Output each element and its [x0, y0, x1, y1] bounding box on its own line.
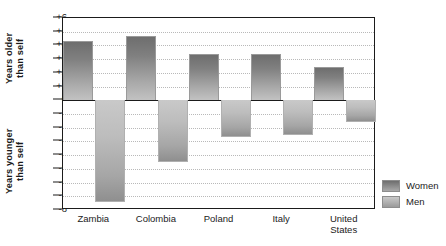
- y-tick-mark: [53, 44, 62, 45]
- bar-men-italy: [283, 100, 313, 134]
- y-tick-mark: [53, 167, 62, 168]
- y-tick-mark: [53, 71, 62, 72]
- x-axis-label: Colombia: [136, 213, 176, 224]
- bar-men-united-states: [346, 100, 376, 122]
- gridline: [63, 32, 374, 33]
- y-axis-title-older: Years older than self: [4, 22, 26, 94]
- y-tick-mark: [53, 154, 62, 155]
- y-tick-mark: [53, 140, 62, 141]
- y-tick-mark: [53, 209, 62, 210]
- bar-women-poland: [189, 54, 219, 101]
- legend: Women Men: [382, 180, 439, 212]
- plot-area: [62, 17, 375, 209]
- x-axis-label: Italy: [272, 213, 289, 224]
- bar-men-zambia: [95, 100, 125, 201]
- x-axis-label: Zambia: [77, 213, 109, 224]
- x-axis-label: Poland: [204, 213, 234, 224]
- bar-men-poland: [221, 100, 251, 137]
- x-axis-label: United States: [330, 213, 357, 235]
- y-tick-mark: [53, 85, 62, 86]
- gridline: [63, 45, 374, 46]
- bar-women-italy: [251, 54, 281, 101]
- gridline: [63, 59, 374, 60]
- y-tick-mark: [53, 181, 62, 182]
- legend-label-women: Women: [406, 181, 439, 191]
- bar-chart: Years older than self Years younger than…: [0, 0, 446, 246]
- y-tick-mark: [53, 30, 62, 31]
- y-tick-mark: [53, 17, 62, 18]
- bar-men-colombia: [158, 100, 188, 162]
- y-tick-mark: [53, 58, 62, 59]
- y-axis-title-younger: Years younger than self: [4, 118, 26, 204]
- y-tick-mark: [53, 195, 62, 196]
- legend-item-women[interactable]: Women: [382, 180, 439, 192]
- y-tick-mark: [53, 113, 62, 114]
- bar-women-colombia: [126, 36, 156, 100]
- legend-label-men: Men: [406, 197, 424, 207]
- legend-swatch-women: [382, 180, 400, 192]
- legend-item-men[interactable]: Men: [382, 196, 439, 208]
- bar-women-united-states: [314, 67, 344, 100]
- y-tick-mark: [53, 126, 62, 127]
- legend-swatch-men: [382, 196, 400, 208]
- bar-women-zambia: [63, 41, 93, 100]
